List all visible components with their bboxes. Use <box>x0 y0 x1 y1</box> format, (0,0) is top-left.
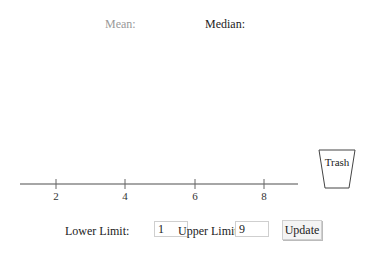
tick-label-2: 2 <box>46 190 66 202</box>
tick-label-6: 6 <box>185 190 205 202</box>
upper-limit-label: Upper Limit: <box>178 224 241 239</box>
trash-label: Trash <box>319 156 355 168</box>
number-line <box>0 0 369 255</box>
tick-label-4: 4 <box>115 190 135 202</box>
tick-label-8: 8 <box>254 190 274 202</box>
upper-limit-input[interactable] <box>235 221 269 237</box>
lower-limit-label: Lower Limit: <box>65 224 129 239</box>
update-button[interactable]: Update <box>282 220 322 240</box>
